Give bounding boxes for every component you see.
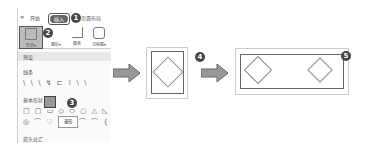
section-arrows: 箭头总汇 <box>23 135 43 142</box>
arrow-right-icon <box>113 64 141 82</box>
tooltip-diamond: 菱形 <box>58 116 78 128</box>
canvas-step-5 <box>235 48 349 95</box>
lines-row[interactable]: \ \ \ ↯ ⊏ ⌇ \ \ <box>23 79 111 87</box>
arrow-right-icon <box>201 64 229 82</box>
chart-icon <box>72 27 83 38</box>
tab-home[interactable]: 开始 <box>30 14 40 21</box>
step-badge-3: 3 <box>67 98 77 108</box>
step-badge-1: 1 <box>71 13 81 23</box>
canvas-step-4 <box>146 47 188 99</box>
icons-button[interactable]: 图标▾ <box>45 26 67 47</box>
step-badge-5: 5 <box>341 51 351 61</box>
menu-icon[interactable]: ≡ <box>20 14 24 20</box>
flowchart-button[interactable]: 流程图▾ <box>88 26 110 47</box>
tab-page-layout[interactable]: 页面布局 <box>81 14 101 21</box>
shapes-gallery: 预设 线条 \ \ \ ↯ ⊏ ⌇ \ \ 基本形状 □ ▢ ▭ ◇ ⬭ ○ △… <box>18 49 111 143</box>
ribbon-tabs: ≡ 开始 插入 1 页面布局 <box>18 12 111 26</box>
section-preset: 预设 <box>23 53 33 60</box>
shapes-icon <box>25 28 37 40</box>
section-basic-shapes: 基本形状 <box>23 96 43 103</box>
section-lines: 线条 <box>23 68 33 75</box>
chart-button[interactable]: 图表 <box>66 26 88 47</box>
shapes-button[interactable]: 形状▾ <box>19 26 43 49</box>
basic-shapes-row-1[interactable]: □ ▢ ▭ ◇ ⬭ ○ △ ◺ <box>23 107 111 115</box>
step-badge-4: 4 <box>195 52 205 62</box>
ribbon-toolbar: 形状▾ 2 图标▾ 图表 流程图▾ <box>18 26 111 49</box>
diamond-shape-button[interactable] <box>44 96 56 108</box>
tab-insert[interactable]: 插入 <box>48 13 70 25</box>
flowchart-icon <box>93 27 105 39</box>
